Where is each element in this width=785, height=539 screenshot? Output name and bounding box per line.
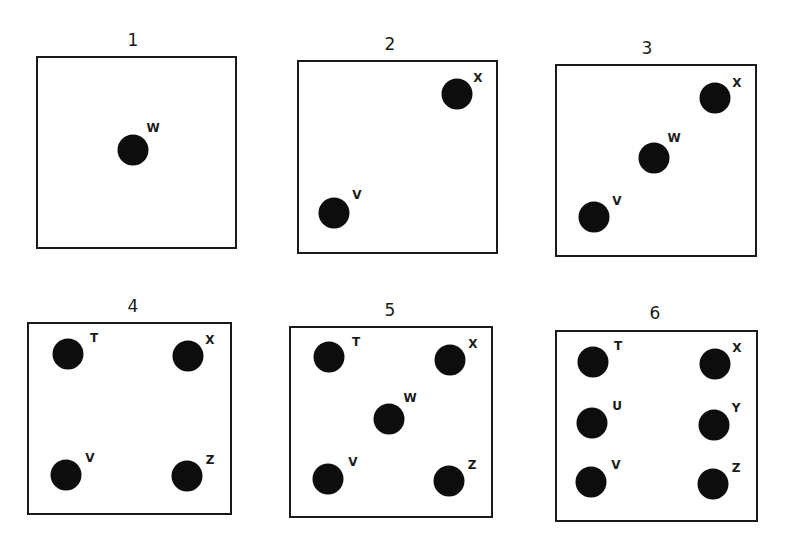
- dot-marker: [698, 469, 729, 500]
- dot-label: X: [205, 333, 214, 347]
- dot-label: Y: [732, 401, 741, 415]
- dot-label: T: [352, 335, 360, 349]
- dot-marker: [578, 347, 609, 378]
- dot-label: X: [468, 337, 477, 351]
- dot-label: Z: [732, 461, 741, 475]
- dot-label: W: [403, 391, 416, 405]
- dot-marker: [51, 460, 82, 491]
- panel-title: 3: [642, 38, 653, 58]
- panel-title: 2: [385, 34, 396, 54]
- dot-label: V: [85, 451, 94, 465]
- dot-label: T: [614, 339, 622, 353]
- dot-marker: [434, 466, 465, 497]
- dot-marker: [700, 349, 731, 380]
- dot-marker: [699, 410, 730, 441]
- dot-marker: [700, 83, 731, 114]
- dot-marker: [53, 339, 84, 370]
- dot-marker: [639, 143, 670, 174]
- dot-marker: [118, 135, 149, 166]
- panel-title: 4: [128, 296, 139, 316]
- dot-marker: [442, 79, 473, 110]
- dot-label: V: [352, 188, 361, 202]
- panel-title: 5: [385, 300, 396, 320]
- dot-label: V: [348, 455, 357, 469]
- dot-marker: [374, 404, 405, 435]
- dot-marker: [579, 202, 610, 233]
- dot-marker: [172, 461, 203, 492]
- dot-marker: [173, 341, 204, 372]
- dot-marker: [576, 467, 607, 498]
- dot-label: X: [732, 341, 741, 355]
- panel-title: 6: [650, 303, 661, 323]
- dot-label: Z: [468, 458, 477, 472]
- dot-label: V: [611, 458, 620, 472]
- dot-label: T: [90, 331, 98, 345]
- dot-marker: [314, 342, 345, 373]
- dot-label: W: [667, 131, 680, 145]
- dot-label: X: [732, 76, 741, 90]
- dot-label: V: [612, 194, 621, 208]
- dot-label: Z: [206, 453, 215, 467]
- dot-marker: [577, 408, 608, 439]
- dot-marker: [313, 464, 344, 495]
- dot-label: X: [473, 71, 482, 85]
- dot-marker: [435, 345, 466, 376]
- dot-label: W: [146, 121, 159, 135]
- panel-title: 1: [128, 30, 139, 50]
- dot-marker: [319, 198, 350, 229]
- dot-label: U: [612, 399, 622, 413]
